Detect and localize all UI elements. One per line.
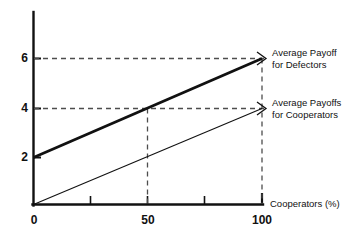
cooperators-label-line1: Average Payoffs (272, 97, 341, 109)
defectors-label-line1: Average Payoff (272, 47, 337, 59)
cooperators-label-line2: for Cooperators (272, 109, 338, 121)
x-tick-label-50: 50 (128, 214, 168, 226)
payoff-chart: 6 4 2 0 50 100 Average Payoff for Defect… (0, 0, 353, 242)
x-tick-label-100: 100 (242, 214, 282, 226)
x-tick-label-0: 0 (14, 214, 54, 226)
defectors-label-line2: for Defectors (272, 59, 326, 71)
y-tick-label-6: 6 (8, 52, 28, 64)
x-axis-title: Cooperators (%) (270, 198, 340, 209)
y-tick-label-2: 2 (8, 151, 28, 163)
y-tick-label-4: 4 (8, 102, 28, 114)
